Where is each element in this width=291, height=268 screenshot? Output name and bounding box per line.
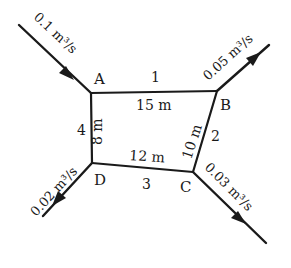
flow-label-a: 0.1 m³/s <box>31 9 80 56</box>
pipe-number-3: 3 <box>142 176 151 192</box>
pipe-number-4: 4 <box>77 122 86 138</box>
pipe-length-1: 15 m <box>136 97 172 113</box>
arrowhead-icon <box>59 66 74 80</box>
node-label-a: A <box>93 70 105 88</box>
flow-label-b: 0.05 m³/s <box>200 31 256 83</box>
node-label-c: C <box>180 178 191 196</box>
pipe-length-4: 8 m <box>89 118 105 145</box>
node-label-b: B <box>220 96 231 114</box>
arrowhead-icon <box>231 211 246 224</box>
pipe-length-3: 12 m <box>129 147 166 165</box>
flow-label-d: 0.02 m³/s <box>27 164 80 219</box>
pipe-network-diagram: A B C D 1 2 3 4 15 m 10 m 12 m 8 m 0.1 m… <box>0 0 291 268</box>
node-label-d: D <box>94 171 106 189</box>
pipe-1-ab <box>91 91 217 93</box>
pipe-number-1: 1 <box>151 69 160 85</box>
pipe-number-2: 2 <box>211 128 220 144</box>
pipe-3-cd <box>92 163 193 172</box>
